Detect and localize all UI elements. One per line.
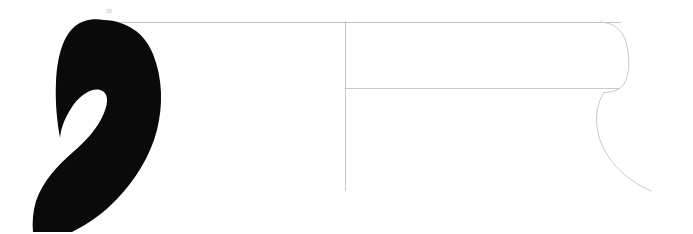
scale-label: 38	[106, 8, 112, 14]
profile-drawing-canvas	[0, 0, 693, 234]
pottery-profile-figure: 38	[0, 0, 693, 234]
